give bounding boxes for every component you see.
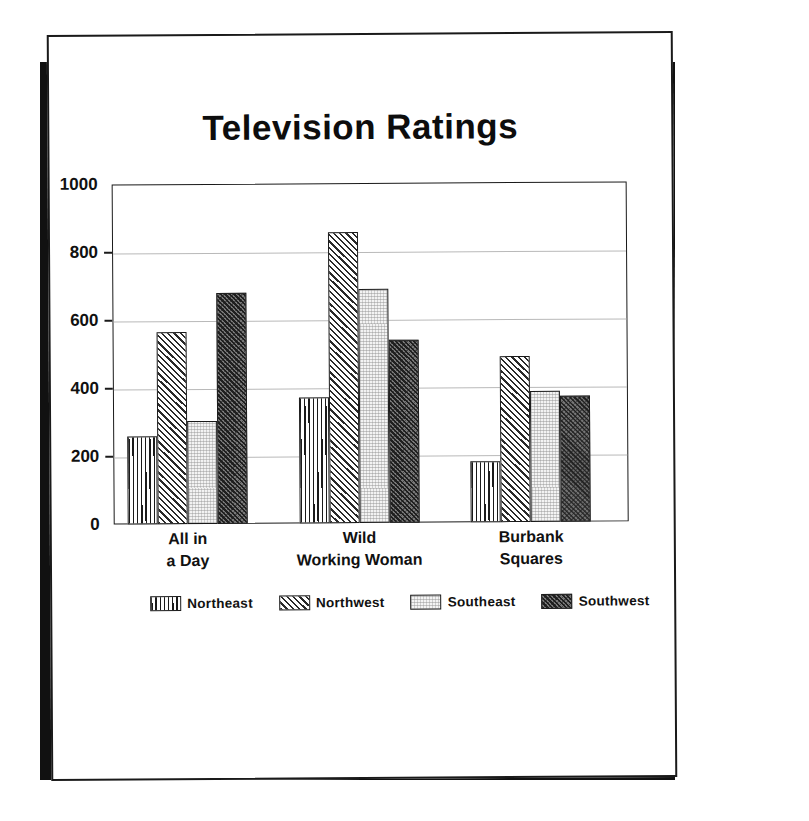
y-tick-label-800: 800 (70, 243, 98, 263)
y-axis: 02004006008001000 (50, 185, 114, 525)
page-root: Television Ratings 02004006008001000 All… (0, 0, 809, 821)
legend-swatch-southeast-icon (411, 595, 442, 610)
x-category-label-line: Burbank (499, 526, 564, 548)
x-category-label-burbank-squares: BurbankSquares (499, 526, 564, 570)
legend-item-southeast: Southeast (411, 594, 516, 610)
legend-item-northeast: Northeast (150, 596, 253, 612)
legend-item-southwest: Southwest (542, 593, 650, 609)
legend-item-northwest: Northwest (279, 595, 385, 611)
legend-label-southeast: Southeast (448, 594, 516, 609)
gridline-600 (113, 318, 626, 322)
legend-swatch-northwest-icon (279, 595, 310, 610)
x-category-label-all-in-a-day: All ina Day (166, 528, 209, 571)
x-category-label-line: Working Woman (297, 548, 423, 570)
legend-swatch-southwest-icon (542, 594, 573, 609)
x-axis-category-labels: All ina DayWildWorking WomanBurbankSquar… (114, 525, 629, 582)
y-tick-label-0: 0 (90, 515, 100, 535)
legend-swatch-northeast-icon (150, 596, 181, 611)
y-tick-mark-400 (105, 388, 113, 390)
x-category-label-line: All in (166, 528, 209, 550)
y-tick-label-200: 200 (71, 447, 99, 467)
legend-label-southwest: Southwest (579, 593, 650, 608)
x-category-label-wild-working-woman: WildWorking Woman (297, 527, 423, 571)
legend-label-northeast: Northeast (187, 596, 253, 611)
gridline-200 (114, 454, 627, 458)
paper-sheet: Television Ratings 02004006008001000 All… (47, 31, 678, 781)
x-category-label-line: a Day (167, 550, 210, 572)
y-tick-mark-800 (104, 252, 112, 254)
x-category-label-line: Wild (297, 527, 423, 549)
y-tick-mark-600 (104, 320, 112, 322)
y-tick-mark-200 (105, 456, 113, 458)
y-tick-label-1000: 1000 (60, 175, 98, 195)
gridline-800 (113, 250, 626, 254)
y-tick-label-400: 400 (70, 379, 98, 399)
x-category-label-line: Squares (499, 547, 564, 569)
legend-label-northwest: Northwest (316, 595, 385, 610)
chart-container: Television Ratings 02004006008001000 All… (49, 33, 676, 779)
chart-legend: NortheastNorthwestSoutheastSouthwest (114, 593, 654, 611)
chart-title: Television Ratings (49, 105, 671, 149)
plot-area (112, 181, 629, 524)
gridline-400 (114, 386, 627, 390)
y-tick-label-600: 600 (70, 311, 98, 331)
